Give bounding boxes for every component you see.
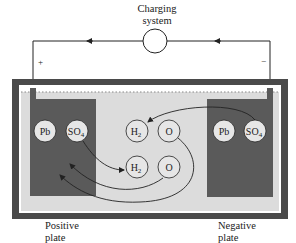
o-label-bottom: O <box>165 162 172 173</box>
negative-plate-label: Negative plate <box>218 220 256 243</box>
battery-charging-diagram: Pb SO4 H2 O H2 O Pb SO4 <box>0 0 296 243</box>
charging-system-label: Charging system <box>137 3 177 27</box>
positive-pb-label: Pb <box>40 126 51 137</box>
positive-plate-label-line2: plate <box>45 232 79 243</box>
charging-system-label-line1: Charging <box>137 3 177 15</box>
negative-pb-label: Pb <box>219 126 230 137</box>
negative-terminal-sign: − <box>261 55 266 67</box>
charging-system-label-line2: system <box>137 15 177 27</box>
negative-plate <box>207 88 273 197</box>
positive-plate-label: Positive plate <box>45 220 79 243</box>
o-label-top: O <box>165 126 172 137</box>
negative-plate-label-line2: plate <box>218 232 256 243</box>
positive-plate-label-line1: Positive <box>45 220 79 232</box>
positive-terminal-sign: + <box>38 56 43 68</box>
charging-system-symbol <box>143 29 167 53</box>
positive-plate <box>30 88 96 196</box>
negative-plate-label-line1: Negative <box>218 220 256 232</box>
